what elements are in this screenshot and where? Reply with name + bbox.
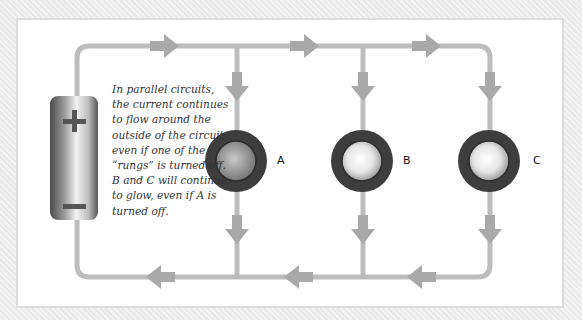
circuit-diagram [0, 0, 582, 320]
arrow-down-icon [478, 215, 502, 244]
arrow-down-icon [351, 215, 375, 244]
caption-text: In parallel circuits, the current contin… [112, 82, 232, 219]
bulb-label-a: A [277, 154, 285, 167]
battery-icon [50, 96, 98, 220]
arrow-right-icon [150, 34, 179, 58]
bulb-label-b: B [403, 154, 411, 167]
bulb-c [458, 130, 520, 192]
arrow-right-icon [290, 34, 319, 58]
bulb-label-c: C [533, 154, 541, 167]
arrow-down-icon [351, 72, 375, 101]
arrow-left-icon [146, 265, 175, 289]
arrow-left-icon [284, 265, 313, 289]
arrow-right-icon [412, 34, 441, 58]
arrow-left-icon [407, 265, 436, 289]
arrow-down-icon [225, 215, 249, 244]
arrow-down-icon [478, 72, 502, 101]
bulb-b [331, 130, 393, 192]
